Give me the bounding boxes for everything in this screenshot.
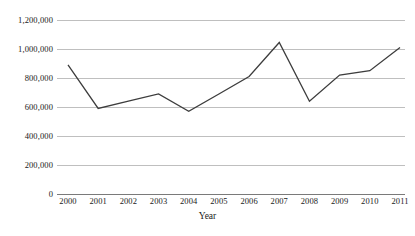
y-axis-tick-label: 600,000	[0, 103, 53, 112]
x-axis-line	[57, 194, 405, 195]
x-axis-tick-label: 2000	[51, 196, 85, 206]
x-axis-tick-label: 2010	[353, 196, 387, 206]
x-axis-tick-label: 2002	[111, 196, 145, 206]
x-axis-tick-label: 2007	[262, 196, 296, 206]
x-axis-tick-label: 2005	[202, 196, 236, 206]
plot-area	[57, 14, 405, 194]
x-axis-tick-label: 2001	[81, 196, 115, 206]
x-axis-title: Year	[0, 211, 415, 222]
x-axis-tick-label: 2009	[323, 196, 357, 206]
y-axis-tick-label: 400,000	[0, 132, 53, 141]
x-axis-tick-label: 2004	[172, 196, 206, 206]
line-chart: 0200,000400,000600,000800,0001,000,0001,…	[0, 0, 415, 236]
y-axis-tick-label: 1,200,000	[0, 16, 53, 25]
y-axis-tick-label: 200,000	[0, 161, 53, 170]
x-axis-tick-label: 2003	[142, 196, 176, 206]
x-axis-tick-labels: 2000200120022003200420052006200720082009…	[0, 196, 415, 210]
series-line	[57, 14, 405, 194]
y-axis-tick-label: 800,000	[0, 74, 53, 83]
x-axis-tick-label: 2011	[383, 196, 415, 206]
x-axis-tick-label: 2008	[292, 196, 326, 206]
y-axis-tick-label: 1,000,000	[0, 45, 53, 54]
x-axis-tick-label: 2006	[232, 196, 266, 206]
